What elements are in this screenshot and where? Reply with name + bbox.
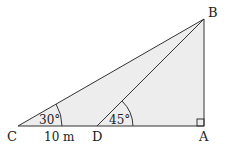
label-b: B [208,5,218,20]
label-c: C [7,129,17,144]
angle-label-c: 30° [39,113,60,127]
length-label-cd: 10 m [44,130,75,144]
label-a: A [198,129,209,144]
angle-label-d: 45° [109,113,130,127]
triangle-diagram: B C D A 30° 45° 10 m [0,0,234,149]
label-d: D [92,129,102,144]
